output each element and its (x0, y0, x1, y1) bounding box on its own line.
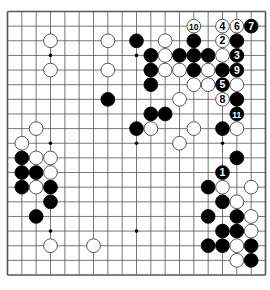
black-stone (244, 253, 258, 267)
white-stone (244, 224, 258, 238)
black-stone (44, 195, 58, 209)
white-stone (44, 63, 58, 77)
black-stone (130, 34, 144, 48)
star-point (221, 141, 225, 145)
white-stone (44, 34, 58, 48)
black-stone (187, 49, 201, 63)
black-stone (230, 224, 244, 238)
black-stone (216, 122, 230, 136)
black-stone (15, 151, 29, 165)
black-stone (144, 63, 158, 77)
black-stone (244, 239, 258, 253)
black-stone (101, 92, 115, 106)
black-stone (144, 78, 158, 92)
black-stone (187, 34, 201, 48)
white-stone (187, 122, 201, 136)
white-stone (158, 34, 172, 48)
white-stone (158, 63, 172, 77)
black-stone (230, 92, 244, 106)
move-number-label: 3 (234, 49, 240, 61)
white-stone (201, 63, 215, 77)
go-board: 7104623958111 (0, 0, 270, 290)
white-stone (216, 49, 230, 63)
move-number-label: 11 (232, 110, 241, 120)
white-stone (173, 92, 187, 106)
white-stone (44, 239, 58, 253)
white-stone-2: 2 (216, 34, 230, 48)
white-stone (173, 63, 187, 77)
star-point (49, 229, 53, 233)
black-stone-5: 5 (216, 78, 230, 92)
white-stone (230, 195, 244, 209)
black-stone-1: 1 (216, 166, 230, 180)
black-stone (230, 210, 244, 224)
white-stone (44, 151, 58, 165)
move-number-label: 8 (220, 93, 226, 105)
star-point (49, 54, 53, 58)
white-stone (101, 63, 115, 77)
white-stone (29, 122, 43, 136)
move-number-label: 6 (234, 20, 240, 32)
black-stone-7: 7 (244, 19, 258, 33)
black-stone-11: 11 (230, 107, 244, 121)
black-stone (44, 180, 58, 194)
move-number-label: 2 (220, 34, 226, 46)
white-stone (244, 180, 258, 194)
black-stone (201, 210, 215, 224)
white-stone-8: 8 (216, 92, 230, 106)
black-stone (144, 49, 158, 63)
black-stone (29, 166, 43, 180)
star-point (135, 229, 139, 233)
move-number-label: 4 (220, 20, 226, 32)
black-stone (15, 166, 29, 180)
white-stone (29, 151, 43, 165)
white-stone-4: 4 (216, 19, 230, 33)
white-stone (29, 180, 43, 194)
white-stone-6: 6 (230, 19, 244, 33)
black-stone (216, 224, 230, 238)
black-stone (201, 180, 215, 194)
black-stone (201, 49, 215, 63)
move-number-label: 5 (220, 78, 226, 90)
white-stone (87, 239, 101, 253)
white-stone (216, 180, 230, 194)
black-stone (158, 107, 172, 121)
star-point (135, 141, 139, 145)
white-stone (201, 78, 215, 92)
black-stone (201, 239, 215, 253)
black-stone (230, 151, 244, 165)
white-stone (15, 136, 29, 150)
white-stone (101, 34, 115, 48)
white-stone (187, 78, 201, 92)
black-stone (230, 34, 244, 48)
black-stone (216, 63, 230, 77)
black-stone (130, 122, 144, 136)
move-number-label: 1 (220, 166, 226, 178)
black-stone (173, 49, 187, 63)
white-stone (44, 166, 58, 180)
move-number-label: 9 (234, 64, 240, 76)
white-stone (244, 210, 258, 224)
black-stone (144, 107, 158, 121)
black-stone (216, 195, 230, 209)
black-stone (15, 180, 29, 194)
star-point (49, 141, 53, 145)
white-stone (230, 122, 244, 136)
black-stone (29, 210, 43, 224)
star-point (135, 54, 139, 58)
white-stone (230, 253, 244, 267)
black-stone-3: 3 (230, 49, 244, 63)
white-stone-10: 10 (187, 19, 201, 33)
black-stone (216, 239, 230, 253)
white-stone (158, 49, 172, 63)
white-stone (230, 78, 244, 92)
white-stone (173, 136, 187, 150)
move-number-label: 7 (248, 20, 254, 32)
white-stone (144, 122, 158, 136)
black-stone (187, 63, 201, 77)
move-number-label: 10 (189, 22, 199, 32)
white-stone (230, 239, 244, 253)
black-stone-9: 9 (230, 63, 244, 77)
